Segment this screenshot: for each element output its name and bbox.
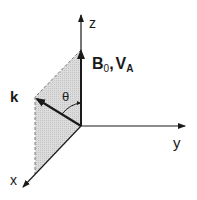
k-b-geometry-diagram: z y x k θ B0,VA <box>0 0 197 200</box>
y-axis-label: y <box>173 134 181 151</box>
label-separator: , <box>109 55 113 72</box>
b0-label: B0,VA <box>92 55 133 74</box>
b0-main: B <box>92 55 104 72</box>
k-vector-label: k <box>10 88 19 105</box>
va-subscript: A <box>126 63 133 74</box>
z-axis-label: z <box>89 15 96 31</box>
theta-label: θ <box>62 89 69 104</box>
va-main: V <box>116 55 127 72</box>
x-axis-label: x <box>10 172 17 188</box>
